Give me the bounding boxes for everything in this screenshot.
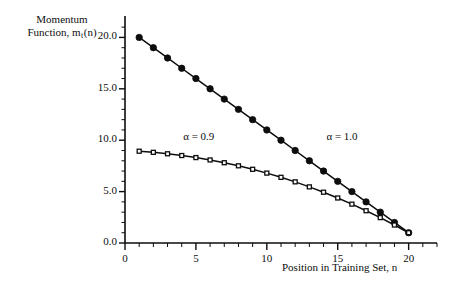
series-annotation: α = 0.9 (183, 130, 214, 142)
data-point-marker (306, 158, 312, 164)
data-point-marker (335, 178, 341, 184)
data-point-marker (166, 152, 170, 156)
series-line (139, 151, 408, 233)
x-axis-tick-label: 15 (326, 252, 350, 264)
data-point-marker (349, 188, 355, 194)
y-axis-tick-label: 20.0 (83, 29, 117, 41)
y-axis-tick-label: 15.0 (83, 81, 117, 93)
series-2 (137, 149, 410, 235)
data-point-marker (278, 137, 284, 143)
data-point-marker (179, 65, 185, 71)
x-axis-tick-label: 0 (113, 252, 137, 264)
y-axis-tick-label: 5.0 (83, 184, 117, 196)
data-point-marker (320, 168, 326, 174)
data-point-marker (193, 75, 199, 81)
data-point-marker (336, 196, 340, 200)
data-point-marker (207, 86, 213, 92)
series-1 (136, 34, 412, 236)
data-point-marker (137, 149, 141, 153)
series-annotation: α = 1.0 (326, 130, 357, 142)
data-point-marker (350, 202, 354, 206)
data-point-marker (251, 167, 255, 171)
x-axis-tick-label: 5 (184, 252, 208, 264)
data-point-marker (264, 127, 270, 133)
data-point-marker (293, 180, 297, 184)
data-point-marker (364, 209, 368, 213)
y-axis-tick-label: 0.0 (83, 235, 117, 247)
data-point-marker (392, 223, 396, 227)
data-point-marker (322, 190, 326, 194)
data-point-marker (292, 147, 298, 153)
data-point-marker (151, 150, 155, 154)
data-point-marker (222, 161, 226, 165)
data-point-marker (378, 216, 382, 220)
data-point-marker (150, 45, 156, 51)
x-axis-tick-label: 10 (255, 252, 279, 264)
series-group (136, 34, 412, 236)
y-axis-tick-label: 10.0 (83, 132, 117, 144)
chart-figure: Momentum Function, mt(n) Position in Tra… (0, 0, 451, 284)
data-point-marker (363, 199, 369, 205)
data-point-marker (208, 158, 212, 162)
data-point-marker (265, 171, 269, 175)
data-point-marker (136, 34, 142, 40)
data-point-marker (194, 156, 198, 160)
data-point-marker (377, 209, 383, 215)
data-point-marker (407, 231, 411, 235)
data-point-marker (164, 55, 170, 61)
data-point-marker (180, 154, 184, 158)
data-point-marker (221, 96, 227, 102)
data-point-marker (235, 106, 241, 112)
x-axis-tick-label: 20 (397, 252, 421, 264)
data-point-marker (236, 164, 240, 168)
data-point-marker (279, 175, 283, 179)
data-point-marker (249, 116, 255, 122)
plot-area (0, 0, 451, 284)
axes-group (119, 16, 437, 250)
data-point-marker (307, 185, 311, 189)
